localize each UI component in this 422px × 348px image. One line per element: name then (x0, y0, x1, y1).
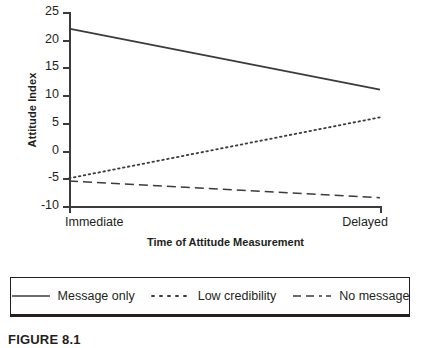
series-line-low-credibility (69, 117, 380, 178)
y-tick-label-20: 20 (19, 32, 59, 47)
legend-label-no-message: No message (339, 289, 409, 303)
y-axis-title: Attitude Index (26, 30, 38, 190)
y-tick-label-0: 0 (19, 143, 59, 158)
legend-swatch-solid-icon (11, 290, 51, 302)
series-line-no-message (69, 181, 380, 198)
legend-item-low-credibility: Low credibility (151, 289, 277, 303)
data-lines-layer (69, 12, 382, 208)
y-tick-label-minus10: -10 (19, 198, 59, 213)
legend-item-no-message: No message (292, 289, 409, 303)
legend-label-low-credibility: Low credibility (198, 289, 277, 303)
x-tick-label-immediate: Immediate (65, 215, 123, 230)
x-axis-title: Time of Attitude Measurement (69, 236, 382, 248)
y-tick-label-minus5: -5 (19, 170, 59, 185)
series-line-message-only (69, 29, 380, 90)
legend-label-message-only: Message only (58, 289, 135, 303)
y-tick-label-10: 10 (19, 87, 59, 102)
figure-caption: FIGURE 8.1 (8, 332, 81, 347)
chart-legend: Message only Low credibility No message (10, 277, 410, 317)
plot-axes: 25 20 15 10 5 0 -5 -10 (69, 12, 382, 208)
y-tick-label-15: 15 (19, 59, 59, 74)
x-tick-label-delayed: Delayed (342, 215, 388, 230)
legend-item-message-only: Message only (11, 289, 135, 303)
legend-swatch-dashed-icon (292, 290, 332, 302)
legend-swatch-dotted-icon (151, 290, 191, 302)
y-tick-label-25: 25 (19, 4, 59, 19)
chart-plot-block: Attitude Index 25 20 15 10 5 0 (0, 0, 422, 262)
figure-container: Attitude Index 25 20 15 10 5 0 (0, 0, 422, 348)
y-tick-label-5: 5 (19, 115, 59, 130)
